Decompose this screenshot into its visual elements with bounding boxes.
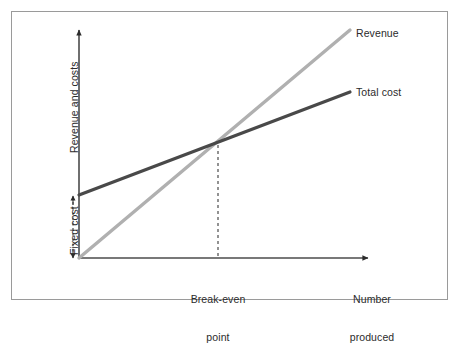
- series-label-revenue: Revenue: [356, 27, 399, 40]
- fixed-cost-label: Fixed cost: [68, 206, 81, 255]
- break-even-point-label: Break-even point: [168, 268, 268, 347]
- break-even-label-line-1: Break-even: [168, 293, 268, 306]
- x-axis-label-line-1: Number: [322, 293, 422, 306]
- break-even-label-line-2: point: [168, 331, 268, 344]
- series-label-total-cost: Total cost: [356, 86, 401, 99]
- y-axis-label: Revenue and costs: [68, 61, 81, 153]
- total-cost-line: [79, 92, 350, 195]
- x-axis-label: Number produced: [322, 268, 422, 347]
- x-axis-label-line-2: produced: [322, 331, 422, 344]
